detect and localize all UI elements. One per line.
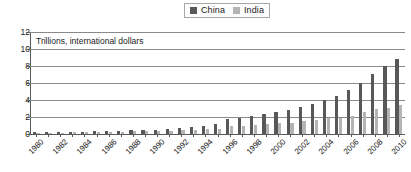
x-axis-label-2010: 2010	[385, 138, 409, 162]
chart-subtitle: Trillions, international dollars	[36, 36, 143, 46]
bar-group-2006	[347, 90, 354, 134]
bar-china-1997	[238, 118, 241, 134]
x-axis-label-1986: 1986	[94, 138, 118, 162]
bar-india-2002	[302, 121, 305, 134]
bar-india-1999	[266, 124, 269, 134]
bar-india-2009	[387, 108, 390, 134]
bar-india-2003	[315, 120, 318, 134]
x-axis-label-2002: 2002	[288, 138, 312, 162]
legend-label-china: China	[201, 6, 225, 15]
bar-china-1998	[250, 116, 253, 134]
x-axis-label-1980: 1980	[22, 138, 46, 162]
bar-china-2007	[359, 83, 362, 134]
bar-group-2010	[395, 59, 402, 134]
legend-item-china: China	[190, 6, 225, 15]
bar-group-2009	[383, 66, 390, 134]
bar-china-2001	[287, 110, 290, 134]
bar-india-1997	[242, 126, 245, 134]
x-axis-label-1992: 1992	[167, 138, 191, 162]
bar-group-2004	[323, 100, 330, 134]
plot-area	[30, 32, 405, 134]
bar-india-2004	[327, 118, 330, 134]
bar-china-1995	[214, 124, 217, 134]
bar-china-1993	[190, 127, 193, 134]
bar-group-2007	[359, 83, 366, 134]
bar-china-1994	[202, 126, 205, 134]
bar-india-2001	[290, 123, 293, 134]
bar-group-1999	[262, 114, 269, 134]
x-axis-label-1988: 1988	[118, 138, 142, 162]
bar-india-2008	[375, 109, 378, 134]
bar-group-1993	[190, 127, 197, 134]
bar-group-2002	[299, 107, 306, 134]
bar-india-1998	[254, 125, 257, 134]
bar-china-1999	[262, 114, 265, 134]
bar-group-1995	[214, 124, 221, 134]
bar-india-1996	[230, 126, 233, 134]
bar-china-2002	[299, 107, 302, 134]
bar-china-2006	[347, 90, 350, 134]
bar-group-2003	[311, 104, 318, 134]
x-axis-label-1984: 1984	[70, 138, 94, 162]
x-axis-label-2004: 2004	[312, 138, 336, 162]
bar-india-2010	[399, 105, 402, 134]
x-axis-label-2000: 2000	[264, 138, 288, 162]
chart-legend: China India	[184, 3, 270, 18]
x-axis-label-1990: 1990	[143, 138, 167, 162]
x-axis-label-1996: 1996	[215, 138, 239, 162]
bar-group-1994	[202, 126, 209, 134]
bar-india-2005	[339, 118, 342, 134]
bar-china-2008	[371, 74, 374, 134]
legend-label-india: India	[244, 6, 264, 15]
bar-china-1996	[226, 119, 229, 134]
bar-india-2006	[351, 116, 354, 134]
bar-china-2009	[383, 66, 386, 134]
bar-china-2005	[335, 96, 338, 134]
x-axis-label-1994: 1994	[191, 138, 215, 162]
bar-china-2010	[395, 59, 398, 134]
bar-group-2001	[287, 110, 294, 134]
bar-india-2000	[278, 123, 281, 134]
bar-group-2000	[274, 112, 281, 134]
bar-group-1998	[250, 116, 257, 134]
bar-series-container	[30, 32, 405, 134]
x-axis-label-2008: 2008	[360, 138, 384, 162]
bar-group-1997	[238, 118, 245, 134]
legend-item-india: India	[233, 6, 264, 15]
bar-china-2003	[311, 104, 314, 134]
x-axis-label-1998: 1998	[239, 138, 263, 162]
bar-group-2005	[335, 96, 342, 134]
bar-group-1996	[226, 119, 233, 134]
bar-group-2008	[371, 74, 378, 134]
bar-china-2004	[323, 100, 326, 134]
x-axis-labels: 1980198219841986198819901992199419961998…	[0, 136, 411, 172]
x-axis-label-2006: 2006	[336, 138, 360, 162]
bar-chart: China India 024681012 Trillions, interna…	[0, 0, 411, 172]
bar-china-2000	[274, 112, 277, 134]
legend-swatch-india-icon	[233, 7, 240, 14]
x-axis-label-1982: 1982	[46, 138, 70, 162]
bar-india-2007	[363, 112, 366, 134]
legend-swatch-china-icon	[190, 7, 197, 14]
